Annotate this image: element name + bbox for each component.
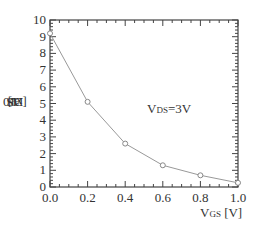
svg-text:0: 0	[40, 179, 47, 194]
svg-text:9: 9	[40, 29, 47, 44]
svg-text:4: 4	[40, 112, 47, 127]
tick-labels: 0.00.20.40.60.81.0012345678910	[33, 12, 246, 205]
data-series	[48, 31, 241, 185]
tick-marks	[50, 20, 238, 187]
svg-text:0.6: 0.6	[155, 190, 172, 205]
svg-text:0.2: 0.2	[79, 190, 95, 205]
svg-text:5: 5	[40, 96, 47, 111]
condition-annotation: VDS=3V	[147, 101, 191, 117]
svg-text:1.0: 1.0	[230, 190, 246, 205]
chart-plot: 0.00.20.40.60.81.0012345678910	[0, 0, 266, 229]
svg-text:8: 8	[40, 45, 47, 60]
x-axis-label: VGS [V]	[200, 205, 242, 221]
svg-text:6: 6	[40, 79, 47, 94]
svg-text:10: 10	[33, 12, 46, 27]
svg-text:0.8: 0.8	[192, 190, 208, 205]
svg-text:1: 1	[40, 162, 47, 177]
svg-text:3: 3	[40, 129, 47, 144]
svg-text:0.4: 0.4	[117, 190, 134, 205]
svg-text:2: 2	[40, 146, 47, 161]
svg-text:7: 7	[40, 62, 47, 77]
axes-frame	[50, 20, 238, 187]
y-axis-label: IDS [x10-6A]	[0, 52, 30, 152]
